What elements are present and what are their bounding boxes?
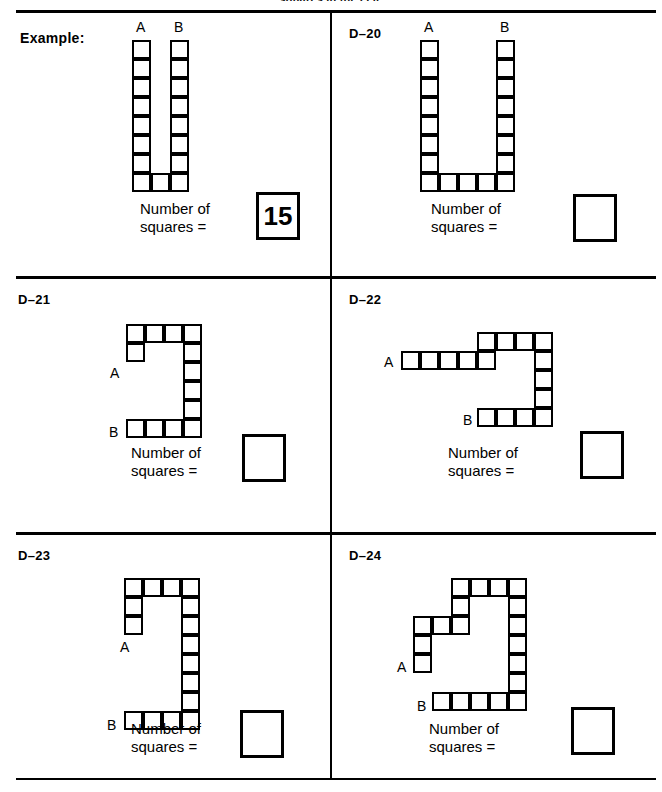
endpoint-label-a: A [136, 20, 145, 34]
square-grid-d23 [124, 578, 200, 730]
grid-square [515, 408, 534, 427]
prompt-text-d23: Number of squares = [131, 720, 201, 755]
grid-square [126, 324, 145, 343]
grid-square [170, 59, 189, 78]
endpoint-label-b: B [463, 413, 472, 427]
square-grid-example [132, 40, 189, 192]
grid-square [183, 362, 202, 381]
answer-value-d20 [576, 197, 614, 239]
grid-square [145, 324, 164, 343]
problem-label-d21: D–21 [18, 292, 50, 307]
grid-square [439, 351, 458, 370]
answer-box-d20[interactable] [573, 194, 617, 242]
grid-square [132, 173, 151, 192]
answer-value-d22 [583, 434, 621, 476]
grid-square [470, 578, 489, 597]
grid-square [420, 116, 439, 135]
grid-square [534, 408, 553, 427]
endpoint-label-b: B [107, 718, 116, 732]
grid-square [496, 173, 515, 192]
square-grid-d24 [413, 578, 527, 730]
grid-square [420, 351, 439, 370]
grid-square [458, 351, 477, 370]
grid-square [451, 578, 470, 597]
grid-square [420, 78, 439, 97]
grid-square [508, 654, 527, 673]
answer-value-example: 15 [259, 195, 297, 237]
grid-square [181, 673, 200, 692]
grid-square [132, 154, 151, 173]
endpoint-label-a: A [424, 20, 433, 34]
grid-square [170, 173, 189, 192]
answer-value-d23 [243, 713, 281, 755]
grid-square [132, 40, 151, 59]
endpoint-label-a: A [397, 660, 406, 674]
grid-square [534, 332, 553, 351]
grid-square [132, 97, 151, 116]
answer-box-d22[interactable] [580, 431, 624, 479]
answer-box-d21[interactable] [242, 434, 286, 482]
problem-label-d24: D–24 [349, 548, 381, 563]
grid-square [413, 616, 432, 635]
grid-square [534, 370, 553, 389]
grid-square [413, 635, 432, 654]
endpoint-label-a: A [384, 355, 393, 369]
grid-square [496, 154, 515, 173]
prompt-text-d24: Number of squares = [429, 720, 499, 755]
grid-square [496, 59, 515, 78]
grid-square [534, 351, 553, 370]
grid-square [458, 173, 477, 192]
grid-square [181, 578, 200, 597]
grid-square [183, 343, 202, 362]
grid-square [170, 135, 189, 154]
grid-square [132, 135, 151, 154]
answer-box-example[interactable]: 15 [256, 192, 300, 240]
problem-label-d23: D–23 [18, 548, 50, 563]
problem-label-d20: D–20 [349, 26, 381, 41]
grid-square [170, 116, 189, 135]
grid-square [477, 332, 496, 351]
endpoint-label-a: A [120, 640, 129, 654]
grid-square [496, 408, 515, 427]
endpoint-label-a: A [110, 366, 119, 380]
grid-square [496, 332, 515, 351]
endpoint-label-b: B [417, 699, 426, 713]
grid-square [496, 78, 515, 97]
grid-square [132, 59, 151, 78]
grid-square [420, 59, 439, 78]
grid-square [124, 616, 143, 635]
grid-square [508, 635, 527, 654]
grid-square [451, 597, 470, 616]
grid-square [181, 635, 200, 654]
grid-square [508, 673, 527, 692]
grid-square [181, 597, 200, 616]
grid-square [181, 616, 200, 635]
grid-square [508, 578, 527, 597]
grid-square [420, 97, 439, 116]
prompt-text-example: Number of squares = [140, 200, 210, 235]
grid-square [126, 343, 145, 362]
square-grid-d22 [401, 332, 553, 446]
problem-label-example: Example: [20, 30, 85, 46]
problem-cell-d21: D–21 A B Number of squares = [0, 278, 331, 534]
grid-square [489, 578, 508, 597]
grid-square [170, 40, 189, 59]
problem-cell-d20: D–20 A B Number of squares = [331, 12, 662, 268]
grid-square [432, 692, 451, 711]
grid-square [181, 692, 200, 711]
answer-value-d21 [245, 437, 283, 479]
worksheet-page: squares in the cell. Example: A B Number… [0, 0, 662, 792]
grid-square [477, 173, 496, 192]
answer-value-d24 [574, 710, 612, 752]
endpoint-label-b: B [500, 20, 509, 34]
grid-square [164, 324, 183, 343]
answer-box-d24[interactable] [571, 707, 615, 755]
grid-square [170, 154, 189, 173]
grid-square [496, 135, 515, 154]
answer-box-d23[interactable] [240, 710, 284, 758]
grid-square [534, 389, 553, 408]
problem-cell-d23: D–23 A B Number of squares = [0, 534, 331, 790]
problem-label-d22: D–22 [349, 292, 381, 307]
clipped-page-header: squares in the cell. [0, 0, 662, 1]
problem-cell-d24: D–24 A B Number of squares = [331, 534, 662, 790]
